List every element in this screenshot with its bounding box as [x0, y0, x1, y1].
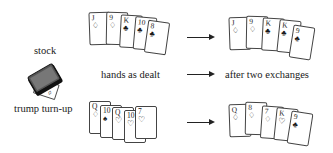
after-two-exchanges-label: after two exchanges	[225, 69, 309, 80]
card-suit-icon: ♣	[281, 29, 287, 38]
card-suit-icon: ♢	[109, 22, 116, 30]
playing-card: 9♣	[289, 24, 316, 60]
hands-as-dealt-label: hands as dealt	[101, 69, 160, 80]
card-suit-icon: ♢	[92, 22, 99, 30]
card-suit-icon: ♢	[92, 111, 99, 119]
card-suit-icon: ♢	[249, 26, 256, 34]
card-suit-icon: ♡	[278, 117, 286, 126]
card-suit-icon: ♢	[232, 27, 239, 35]
card-suit-icon: ♢	[248, 112, 255, 120]
trump-turnup-label: trump turn-up	[14, 103, 73, 114]
arrow-right-icon	[187, 122, 213, 123]
card-suit-icon: ♣	[292, 121, 298, 130]
card-suit-icon: ♡	[115, 117, 122, 125]
card-suit-icon: ♣	[137, 26, 143, 34]
playing-card: 9♣	[287, 110, 314, 146]
playing-card: 7♡	[135, 106, 157, 139]
arrow-right-icon	[187, 74, 213, 75]
card-suit-icon: ♡	[138, 116, 145, 124]
card-suit-icon: ♣	[265, 28, 271, 36]
stock-pile-icon: ◊	[22, 62, 78, 102]
card-suit-icon: ♣	[149, 30, 155, 39]
card-suit-icon: ♢	[264, 115, 272, 123]
card-suit-icon: ♣	[294, 35, 300, 44]
arrow-right-icon	[187, 37, 213, 38]
card-suit-icon: ♠	[103, 115, 107, 123]
card-suit-icon: ♢	[232, 114, 239, 122]
playing-card: 8♣	[144, 20, 170, 56]
card-suit-icon: ♡	[127, 120, 134, 128]
stock-label: stock	[34, 45, 56, 56]
card-suit-icon: ♣	[123, 25, 129, 33]
